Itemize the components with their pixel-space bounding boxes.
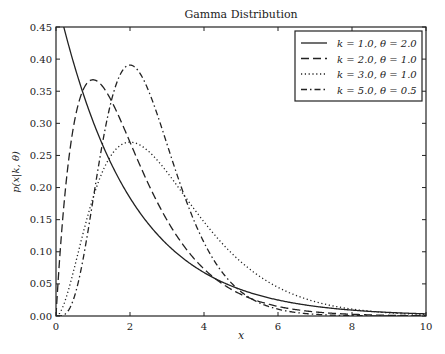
x-tick-label: 0 — [53, 321, 59, 332]
y-tick-label: 0.30 — [30, 118, 52, 129]
legend: k = 1.0, θ = 2.0k = 2.0, θ = 1.0k = 3.0,… — [295, 31, 422, 101]
y-tick-label: 0.25 — [30, 150, 52, 161]
x-tick-label: 4 — [201, 321, 207, 332]
x-tick-label: 8 — [349, 321, 355, 332]
x-tick-label: 10 — [420, 321, 433, 332]
x-tick-label: 2 — [127, 321, 133, 332]
legend-label: k = 3.0, θ = 1.0 — [337, 69, 417, 80]
y-tick-label: 0.00 — [30, 311, 52, 322]
legend-label: k = 5.0, θ = 0.5 — [337, 85, 417, 96]
y-tick-label: 0.35 — [30, 86, 52, 97]
y-tick-label: 0.15 — [30, 214, 52, 225]
gamma-chart: Gamma Distribution 0246810 0.000.050.100… — [0, 0, 445, 354]
y-tick-label: 0.45 — [30, 22, 52, 33]
x-tick-label: 6 — [275, 321, 281, 332]
series-line-4 — [56, 65, 426, 316]
y-tick-label: 0.20 — [30, 182, 52, 193]
legend-label: k = 1.0, θ = 2.0 — [337, 38, 417, 49]
y-tick-label: 0.05 — [30, 278, 52, 289]
y-tick-label: 0.10 — [30, 246, 52, 257]
x-axis-label: x — [238, 329, 245, 342]
y-axis-label: p(x|k, θ) — [10, 151, 22, 193]
y-tick-label: 0.40 — [30, 54, 52, 65]
series-line-2 — [56, 80, 426, 316]
chart-title: Gamma Distribution — [184, 8, 297, 21]
legend-label: k = 2.0, θ = 1.0 — [337, 54, 417, 65]
